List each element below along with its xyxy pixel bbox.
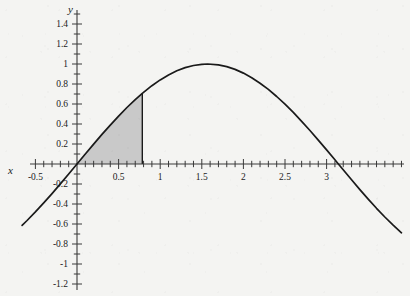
plot-canvas: -0.50.511.522.53 -1.2-1-0.8-0.6-0.4-0.20… bbox=[0, 0, 410, 296]
axes-group bbox=[30, 10, 404, 290]
x-tick-label: 0.5 bbox=[113, 172, 125, 182]
sine-curve bbox=[22, 64, 401, 233]
y-tick-label: -1.2 bbox=[53, 279, 68, 289]
x-tick-label: 1.5 bbox=[196, 172, 208, 182]
y-tick-label: -0.6 bbox=[53, 219, 68, 229]
y-tick-label: 0.4 bbox=[56, 119, 68, 129]
y-tick-label: -0.4 bbox=[53, 199, 68, 209]
y-tick-label: 0.2 bbox=[56, 139, 68, 149]
y-tick-label: 1.4 bbox=[56, 19, 68, 29]
x-tick-label: 1 bbox=[158, 172, 163, 182]
x-axis-tick-labels: -0.50.511.522.53 bbox=[28, 172, 329, 182]
x-tick-label: 2.5 bbox=[279, 172, 291, 182]
y-axis-tick-labels: -1.2-1-0.8-0.6-0.4-0.20.20.40.60.811.21.… bbox=[53, 19, 68, 289]
y-axis-label: y bbox=[67, 3, 73, 15]
x-tick-label: -0.5 bbox=[28, 172, 43, 182]
sine-plot-figure: -0.50.511.522.53 -1.2-1-0.8-0.6-0.4-0.20… bbox=[0, 0, 410, 296]
y-tick-label: -1 bbox=[60, 259, 68, 269]
y-tick-label: 0.6 bbox=[56, 99, 68, 109]
y-tick-label: 1.2 bbox=[56, 39, 68, 49]
x-tick-label: 3 bbox=[324, 172, 329, 182]
x-axis-label: x bbox=[7, 164, 13, 176]
y-tick-label: -0.8 bbox=[53, 239, 68, 249]
y-tick-label: 1 bbox=[63, 59, 68, 69]
y-tick-label: 0.8 bbox=[56, 79, 68, 89]
x-tick-label: 2 bbox=[241, 172, 246, 182]
